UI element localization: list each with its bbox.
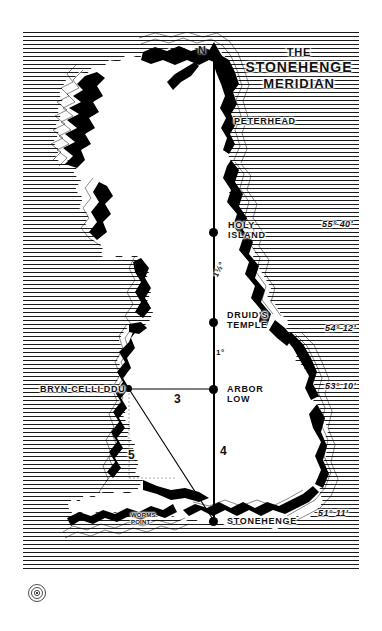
latitude-holy-island: 55° 40': [322, 219, 353, 229]
triangle-side-label-5: 5: [128, 448, 135, 462]
map-title-line-1: THE: [240, 46, 358, 59]
node-holy-island[interactable]: [209, 228, 218, 237]
node-arbor-low[interactable]: [209, 385, 218, 394]
place-label-druids-temple-line-1: DRUID'S: [227, 310, 269, 320]
place-label-peterhead: PETERHEAD: [234, 116, 296, 126]
place-label-holy-island-line-2: ISLAND: [228, 230, 266, 240]
map-title-line-3: MERIDIAN: [240, 76, 358, 92]
stonehenge-meridian-line: [213, 50, 215, 522]
place-label-arbor-low-line-1: ARBOR: [227, 384, 264, 394]
map-title: THE STONEHENGE MERIDIAN: [240, 46, 358, 92]
node-stonehenge[interactable]: [209, 517, 218, 526]
place-label-druids-temple: DRUID'S TEMPLE: [227, 310, 269, 330]
meridian-span-druids-to-arbor: 1°: [216, 348, 225, 357]
place-label-stonehenge: STONEHENGE: [227, 516, 297, 526]
compass-rosette-icon: [26, 582, 48, 604]
map-figure: N THE STONEHENGE MERIDIAN PETERHEAD HOLY…: [0, 0, 382, 631]
place-label-arbor-low-line-2: LOW: [227, 394, 264, 404]
place-label-druids-temple-line-2: TEMPLE: [227, 320, 269, 330]
place-label-holy-island-line-1: HOLY: [228, 220, 266, 230]
triangle-side-label-4: 4: [220, 444, 227, 458]
latitude-stonehenge: 51° 11': [318, 508, 348, 518]
map-title-line-2: STONEHENGE: [240, 59, 358, 76]
place-label-worms-point-line-2: POINT: [131, 519, 156, 526]
place-label-worms-point: WORMS POINT: [131, 512, 156, 525]
sea-hatching: [23, 32, 359, 572]
node-druids-temple[interactable]: [209, 318, 218, 327]
place-label-holy-island: HOLY ISLAND: [228, 220, 266, 240]
landmass-britain: [23, 32, 359, 572]
triangle-side-label-3: 3: [174, 392, 181, 406]
latitude-druids-temple: 54° 12': [325, 323, 356, 333]
north-label: N: [198, 44, 206, 56]
node-bryn-celli-ddu[interactable]: [125, 385, 132, 392]
latitude-arbor-low: 53° 10': [325, 381, 356, 391]
place-label-worms-point-line-1: WORMS: [131, 512, 156, 519]
place-label-bryn-celli-ddu: BRYN CELLI DDU: [40, 384, 125, 394]
place-label-arbor-low: ARBOR LOW: [227, 384, 264, 404]
